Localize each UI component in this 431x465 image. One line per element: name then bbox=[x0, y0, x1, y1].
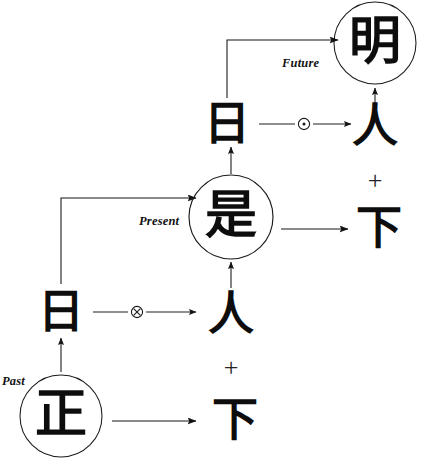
circled-dot-icon bbox=[296, 116, 312, 132]
present-era-label: Present bbox=[139, 215, 179, 228]
past-row-result-char: 下 bbox=[208, 396, 262, 446]
future-era-label: Future bbox=[282, 57, 319, 70]
elbow-ri-to-present bbox=[61, 198, 196, 284]
circled-times-icon bbox=[129, 304, 145, 320]
upper-plus-sign: + bbox=[363, 168, 387, 194]
upper-left-char: 日 bbox=[200, 100, 254, 150]
past-node-char: 正 bbox=[31, 388, 91, 444]
upper-right-char: 人 bbox=[348, 102, 402, 152]
diagram-canvas: 下 ============ --> 人 ============ --> 下 … bbox=[0, 0, 431, 465]
lower-plus-sign: + bbox=[219, 355, 243, 381]
middle-right-char: 人 bbox=[204, 290, 258, 340]
present-row-result-char: 下 bbox=[352, 204, 406, 254]
past-era-label: Past bbox=[2, 375, 25, 388]
present-node-char: 是 bbox=[201, 189, 261, 245]
future-node-char: 明 bbox=[345, 15, 405, 71]
middle-left-char: 日 bbox=[34, 288, 88, 338]
